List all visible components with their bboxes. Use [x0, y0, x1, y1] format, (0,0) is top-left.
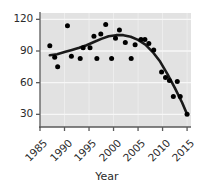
- data-point: [129, 56, 134, 61]
- data-point: [69, 54, 74, 59]
- y-axis: [36, 12, 40, 128]
- data-point: [94, 56, 99, 61]
- data-point: [78, 56, 83, 61]
- data-point: [175, 79, 180, 84]
- data-point: [88, 45, 93, 50]
- data-point: [117, 27, 122, 32]
- data-point: [167, 78, 172, 83]
- data-point: [178, 94, 183, 99]
- data-point: [113, 36, 118, 41]
- x-axis-title: Year: [0, 170, 214, 183]
- y-tick-label: 30: [0, 107, 33, 119]
- data-point: [103, 22, 108, 27]
- data-point: [109, 56, 114, 61]
- data-point: [171, 94, 176, 99]
- data-point: [142, 37, 147, 42]
- y-tick-label: 90: [0, 44, 33, 56]
- data-point: [91, 34, 96, 39]
- data-point: [159, 70, 164, 75]
- data-point: [65, 23, 70, 28]
- data-point: [146, 41, 151, 46]
- data-point: [52, 55, 57, 60]
- y-tick-label: 60: [0, 76, 33, 88]
- data-point: [185, 112, 190, 117]
- plot-panel: [40, 13, 191, 127]
- data-point: [133, 42, 138, 47]
- data-point: [55, 64, 60, 69]
- data-point: [98, 32, 103, 37]
- data-point: [123, 40, 128, 45]
- x-axis: [39, 127, 191, 131]
- data-point: [151, 47, 156, 52]
- chart-figure: 306090120 1985199019952000200520102015 Y…: [0, 0, 214, 185]
- plot-background: [40, 13, 191, 127]
- y-tick-label: 120: [0, 12, 33, 24]
- data-point: [81, 45, 86, 50]
- data-point: [163, 75, 168, 80]
- data-point: [47, 43, 52, 48]
